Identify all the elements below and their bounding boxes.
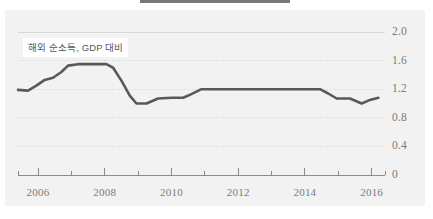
chart-figure: 해외 순소득, GDP 대비 00.40.81.21.62.0200620082… [0, 0, 433, 219]
xtick-label-2012: 2012 [227, 186, 250, 198]
ytick-label-0.8: 0.8 [392, 111, 407, 123]
series-legend-label: 해외 순소득, GDP 대비 [23, 38, 128, 57]
ytick-label-0.4: 0.4 [392, 139, 407, 151]
xtick-label-2016: 2016 [360, 186, 383, 198]
ytick-label-0: 0 [392, 168, 398, 180]
xtick-label-2008: 2008 [93, 186, 116, 198]
xtick-label-2014: 2014 [294, 186, 317, 198]
ytick-label-2.0: 2.0 [392, 25, 407, 37]
xtick-label-2010: 2010 [160, 186, 183, 198]
xtick-label-2006: 2006 [27, 186, 50, 198]
ytick-label-1.6: 1.6 [392, 54, 407, 66]
data-line-series-0 [18, 64, 378, 103]
ytick-label-1.2: 1.2 [392, 82, 407, 94]
